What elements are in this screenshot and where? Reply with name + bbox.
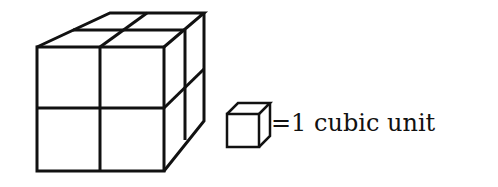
unit-legend-text: =1 cubic unit	[271, 106, 435, 140]
unit-cube-icon	[227, 103, 270, 147]
large-cube-2x2x2	[37, 13, 204, 171]
cube-diagram	[0, 0, 498, 187]
